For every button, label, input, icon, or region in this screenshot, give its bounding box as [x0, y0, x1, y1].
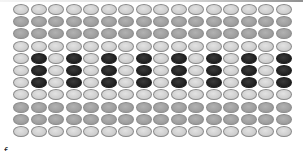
- bead-dark: [66, 77, 82, 88]
- bead-light: [83, 65, 99, 76]
- bead-light: [258, 77, 274, 88]
- bead-dark: [101, 77, 117, 88]
- bead-light: [136, 89, 152, 100]
- bead-medium: [223, 114, 239, 125]
- bead-light: [118, 89, 134, 100]
- bead-light: [83, 77, 99, 88]
- bead-medium: [241, 16, 257, 27]
- bead-light: [118, 126, 134, 137]
- bead-light: [171, 4, 187, 15]
- bead-dark: [276, 65, 292, 76]
- bead-light: [171, 89, 187, 100]
- bead-light: [101, 126, 117, 137]
- bead-medium: [188, 28, 204, 39]
- bead-light: [276, 126, 292, 137]
- bead-dark: [136, 53, 152, 64]
- bead-light: [258, 4, 274, 15]
- bead-light: [188, 4, 204, 15]
- bead-dark: [241, 65, 257, 76]
- bead-medium: [66, 28, 82, 39]
- bead-medium: [258, 16, 274, 27]
- bead-medium: [241, 114, 257, 125]
- bead-light: [258, 89, 274, 100]
- bead-medium: [171, 114, 187, 125]
- bead-dark: [136, 77, 152, 88]
- bead-medium: [223, 16, 239, 27]
- bead-light: [188, 53, 204, 64]
- bead-light: [48, 126, 64, 137]
- bead-dark: [241, 77, 257, 88]
- bead-medium: [206, 16, 222, 27]
- bead-medium: [31, 16, 47, 27]
- bead-medium: [13, 28, 29, 39]
- bead-light: [206, 126, 222, 137]
- bead-medium: [118, 28, 134, 39]
- top-edge-bar: [0, 0, 303, 2]
- bead-dark: [276, 77, 292, 88]
- bead-light: [223, 65, 239, 76]
- bead-medium: [136, 102, 152, 113]
- bead-medium: [136, 114, 152, 125]
- bead-light: [66, 4, 82, 15]
- bead-light: [101, 89, 117, 100]
- bead-light: [258, 65, 274, 76]
- bead-light: [153, 65, 169, 76]
- bead-light: [241, 89, 257, 100]
- bead-medium: [66, 114, 82, 125]
- bead-light: [13, 41, 29, 52]
- bead-medium: [153, 114, 169, 125]
- clipped-caption: ƒ . . .: [4, 146, 48, 151]
- bead-medium: [258, 102, 274, 113]
- bead-light: [13, 126, 29, 137]
- bead-light: [188, 65, 204, 76]
- bead-light: [171, 126, 187, 137]
- bead-light: [136, 4, 152, 15]
- bead-light: [241, 126, 257, 137]
- bead-dark: [31, 77, 47, 88]
- bead-pattern-grid: [13, 4, 295, 138]
- bead-light: [153, 41, 169, 52]
- bead-dark: [241, 53, 257, 64]
- bead-light: [66, 126, 82, 137]
- bead-light: [83, 89, 99, 100]
- bead-medium: [66, 102, 82, 113]
- bead-light: [83, 4, 99, 15]
- bead-medium: [188, 102, 204, 113]
- bead-medium: [206, 102, 222, 113]
- bead-medium: [171, 16, 187, 27]
- bead-light: [276, 89, 292, 100]
- bead-light: [13, 77, 29, 88]
- bead-medium: [136, 16, 152, 27]
- bead-light: [31, 4, 47, 15]
- bead-light: [188, 89, 204, 100]
- bead-light: [223, 77, 239, 88]
- bead-light: [276, 41, 292, 52]
- bead-dark: [31, 53, 47, 64]
- bead-light: [223, 53, 239, 64]
- bead-medium: [206, 114, 222, 125]
- bead-light: [118, 41, 134, 52]
- bead-light: [13, 89, 29, 100]
- bead-light: [258, 53, 274, 64]
- bead-medium: [223, 102, 239, 113]
- bead-light: [118, 65, 134, 76]
- bead-dark: [31, 65, 47, 76]
- bead-light: [153, 89, 169, 100]
- bead-light: [83, 126, 99, 137]
- bead-medium: [83, 102, 99, 113]
- bead-medium: [136, 28, 152, 39]
- bead-light: [188, 126, 204, 137]
- bead-medium: [153, 102, 169, 113]
- bead-dark: [206, 65, 222, 76]
- bead-light: [48, 41, 64, 52]
- bead-medium: [188, 16, 204, 27]
- bead-light: [83, 41, 99, 52]
- bead-medium: [153, 16, 169, 27]
- bead-dark: [66, 53, 82, 64]
- bead-light: [153, 4, 169, 15]
- bead-light: [206, 89, 222, 100]
- bead-dark: [276, 53, 292, 64]
- bead-medium: [171, 102, 187, 113]
- bead-light: [101, 4, 117, 15]
- bead-medium: [48, 114, 64, 125]
